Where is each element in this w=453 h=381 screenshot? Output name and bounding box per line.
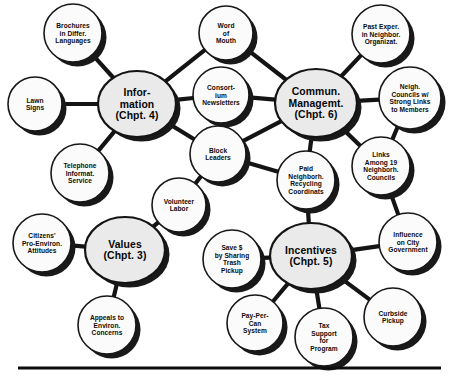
- node-label-line: Curbside: [379, 310, 408, 317]
- node-label-line: Councils w/: [391, 91, 428, 98]
- node-label-line: Concerns: [92, 329, 123, 336]
- node-label-line: Lawn: [26, 97, 43, 104]
- node-label-line: Attitudes: [27, 247, 56, 254]
- node-label-line: of: [223, 30, 230, 37]
- node-label-line: Signs: [26, 104, 44, 112]
- node-label-line: to Members: [391, 106, 429, 113]
- node-label-line: Service: [68, 177, 92, 184]
- leaf-node-lawn-signs[interactable]: LawnSigns: [8, 77, 67, 136]
- node-label-line: Pickup: [221, 267, 243, 275]
- edge-information-to-telephone-information-service: [98, 131, 114, 151]
- node-label-line: in Differ.: [60, 30, 87, 37]
- node-label-line: Councils: [367, 174, 396, 181]
- hub-node-communication-management[interactable]: Commun.Managemt.(Chpt. 6): [275, 69, 362, 142]
- node-label-line: Pickup: [382, 317, 404, 325]
- leaf-node-brochures-different-languages[interactable]: Brochuresin Differ.Languages: [44, 4, 107, 67]
- node-label-line: ium: [215, 92, 227, 99]
- node-label-line: (Chpt. 5): [289, 256, 332, 267]
- leaf-node-tax-support-for-program[interactable]: TaxSupportforProgram: [295, 308, 358, 371]
- leaf-node-citizens-pro-environment-attitudes[interactable]: Citizens'Pro-Environ.Attitudes: [13, 214, 76, 277]
- leaf-node-word-of-mouth[interactable]: WordofMouth: [199, 6, 258, 65]
- nodes-layer: Brochuresin Differ.LanguagesLawnSignsTel…: [8, 4, 446, 371]
- node-label-line: Leaders: [205, 154, 231, 161]
- node-label-line: Can: [249, 320, 262, 327]
- leaf-node-telephone-information-service[interactable]: TelephoneInformat.Service: [51, 144, 114, 207]
- node-label-line: Government: [388, 246, 428, 253]
- node-label-line: Paid: [299, 165, 313, 172]
- edge-block-leaders-to-volunteer-labor: [195, 176, 201, 183]
- node-label-line: Environ.: [94, 322, 121, 329]
- edge-incentives-to-pay-per-can-system: [273, 283, 288, 301]
- leaf-node-neighborhood-councils-strong-links[interactable]: Neigh.Councils w/Strong Linksto Members: [379, 67, 446, 134]
- leaf-node-save-money-sharing-trash-pickup[interactable]: Save $by SharingTrashPickup: [203, 230, 266, 293]
- node-label-line: System: [243, 327, 267, 335]
- leaf-node-appeals-to-environmental-concerns[interactable]: Appeals toEnviron.Concerns: [78, 296, 141, 359]
- node-label-line: Informat.: [66, 170, 95, 177]
- hub-node-incentives[interactable]: Incentives(Chpt. 5): [270, 223, 357, 294]
- node-label-line: Infor-: [123, 87, 151, 98]
- node-label-line: Citizens': [28, 232, 56, 239]
- node-label-line: Newsletters: [202, 99, 240, 106]
- edge-communication-management-to-past-experience-neighborhood-organizations: [341, 55, 361, 76]
- node-label-line: for: [320, 337, 329, 344]
- edge-incentives-to-influence-on-city-government: [351, 246, 379, 250]
- node-label-line: Block: [209, 147, 227, 154]
- diagram-canvas: Brochuresin Differ.LanguagesLawnSignsTel…: [0, 0, 453, 381]
- node-label-line: Mouth: [216, 37, 236, 44]
- node-label-line: Values: [108, 239, 142, 250]
- leaf-node-pay-per-can-system[interactable]: Pay-Per-CanSystem: [227, 295, 288, 356]
- leaf-node-influence-on-city-government[interactable]: Influenceon CityGovernment: [379, 213, 442, 276]
- node-label-line: Organizat.: [365, 38, 398, 46]
- node-label-line: Program: [310, 345, 338, 353]
- edge-neighborhood-councils-strong-links-to-links-among-19-councils: [392, 127, 397, 140]
- node-label-line: Labor: [170, 205, 189, 212]
- node-label-line: (Chpt. 6): [294, 109, 337, 120]
- leaf-node-consortium-newsletters[interactable]: Consort-iumNewsletters: [193, 67, 254, 128]
- node-label-line: Languages: [55, 37, 91, 45]
- node-label-line: Pro-Environ.: [22, 240, 62, 247]
- node-label-line: Tax: [318, 322, 329, 329]
- leaf-node-paid-neighborhood-recycling-coordinators[interactable]: PaidNeighborh.RecyclingCoordinats: [277, 151, 340, 214]
- node-label-line: Volunteer: [164, 198, 195, 205]
- node-label-line: (Chpt. 3): [103, 250, 146, 261]
- edge-communication-management-to-block-leaders: [243, 121, 281, 141]
- node-label-line: mation: [120, 99, 155, 110]
- node-label-line: Managemt.: [288, 98, 343, 109]
- node-label-line: Consort-: [207, 84, 235, 91]
- node-label-line: Word: [218, 22, 235, 29]
- node-label-line: Links: [372, 151, 390, 158]
- node-label-line: (Chpt. 4): [115, 110, 158, 121]
- leaf-node-curbside-pickup[interactable]: CurbsidePickup: [364, 288, 427, 351]
- node-label-line: Trash: [223, 259, 241, 266]
- hub-node-values[interactable]: Values(Chpt. 3): [85, 217, 170, 288]
- node-label-line: Commun.: [292, 86, 341, 97]
- node-label-line: Coordinats: [288, 188, 324, 195]
- leaf-node-links-among-19-councils[interactable]: LinksAmong 19Neighborh.Councils: [352, 137, 415, 200]
- leaf-node-past-experience-neighborhood-organizations[interactable]: Past Exper.in Neighbor.Organizat.: [352, 5, 415, 68]
- node-label-line: Brochures: [56, 22, 90, 29]
- concept-map-svg: Brochuresin Differ.LanguagesLawnSignsTel…: [0, 0, 453, 381]
- node-label-line: Influence: [393, 231, 423, 238]
- edge-communication-management-to-word-of-mouth: [247, 50, 286, 80]
- node-label-line: Incentives: [285, 245, 337, 256]
- leaf-node-volunteer-labor[interactable]: VolunteerLabor: [152, 178, 211, 237]
